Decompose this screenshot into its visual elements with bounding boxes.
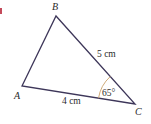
triangle-abc — [22, 16, 135, 104]
angle-c-label: 65° — [102, 89, 115, 99]
vertex-label-b: B — [52, 2, 58, 12]
side-ac-length: 4 cm — [62, 97, 81, 107]
vertex-label-a: A — [14, 91, 20, 101]
vertex-label-c: C — [135, 107, 142, 117]
side-bc-length: 5 cm — [97, 50, 116, 60]
